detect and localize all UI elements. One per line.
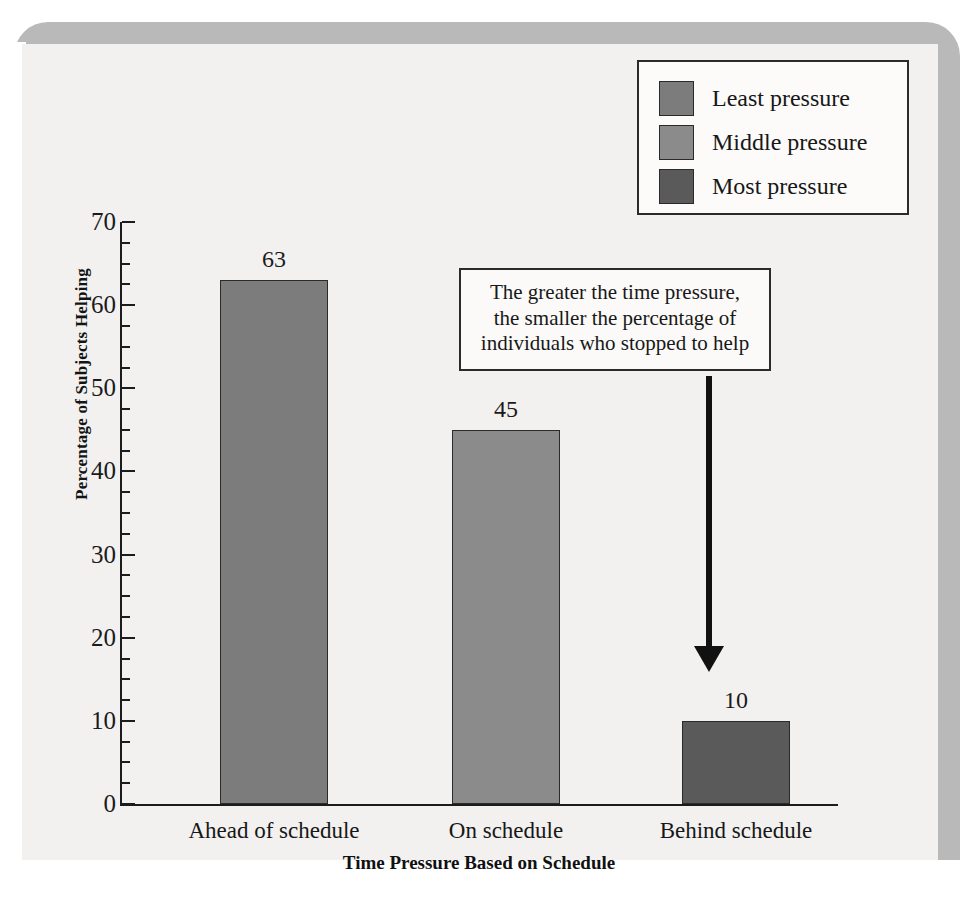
annotation-callout: The greater the time pressure, the small…: [459, 268, 771, 371]
y-tick-minor: [122, 699, 130, 701]
bar: [220, 280, 328, 804]
bar-value-label: 10: [686, 688, 786, 712]
bar: [682, 721, 790, 804]
legend-label: Middle pressure: [712, 129, 867, 156]
x-category-label: On schedule: [376, 819, 636, 842]
figure-page: 010203040506070 Percentage of Subjects H…: [0, 0, 974, 910]
y-tick-minor: [122, 242, 130, 244]
y-tick-minor: [122, 741, 130, 743]
y-axis-title: Percentage of Subjects Helping: [72, 204, 92, 564]
y-tick-minor: [122, 263, 130, 265]
y-tick-minor: [122, 325, 130, 327]
y-tick-minor: [122, 512, 130, 514]
bar: [452, 430, 560, 804]
y-tick-minor: [122, 782, 130, 784]
y-tick-major: [122, 304, 135, 306]
legend-swatch-icon: [659, 125, 694, 160]
bar-value-label: 63: [224, 247, 324, 271]
legend-swatch-icon: [659, 81, 694, 116]
annotation-line-1: The greater the time pressure,: [490, 280, 740, 304]
y-tick-minor: [122, 533, 130, 535]
y-tick-major: [122, 221, 135, 223]
y-tick-label: 20: [74, 625, 116, 650]
x-category-label: Ahead of schedule: [144, 819, 404, 842]
y-tick-major: [122, 637, 135, 639]
legend-item: Middle pressure: [659, 120, 907, 164]
y-tick-minor: [122, 283, 130, 285]
y-tick-label: 0: [74, 791, 116, 816]
x-axis-line: [120, 804, 838, 806]
annotation-arrow-shaft: [706, 376, 712, 652]
y-tick-minor: [122, 450, 130, 452]
y-axis-line: [120, 222, 122, 806]
legend-item: Most pressure: [659, 164, 907, 208]
legend-swatch-icon: [659, 169, 694, 204]
y-tick-minor: [122, 346, 130, 348]
legend-item: Least pressure: [659, 76, 907, 120]
y-tick-minor: [122, 574, 130, 576]
y-tick-minor: [122, 491, 130, 493]
y-tick-minor: [122, 616, 130, 618]
annotation-arrow-head-icon: [694, 646, 724, 672]
y-tick-minor: [122, 658, 130, 660]
y-tick-minor: [122, 678, 130, 680]
y-tick-minor: [122, 408, 130, 410]
annotation-line-3: individuals who stopped to help: [473, 331, 757, 357]
legend-label: Most pressure: [712, 173, 847, 200]
x-axis-title: Time Pressure Based on Schedule: [120, 852, 838, 874]
y-tick-major: [122, 554, 135, 556]
x-category-label: Behind schedule: [606, 819, 866, 842]
bar-chart: 010203040506070 Percentage of Subjects H…: [22, 44, 938, 860]
annotation-line-2: the smaller the percentage of: [473, 306, 757, 332]
bar-value-label: 45: [456, 397, 556, 421]
y-tick-label: 10: [74, 708, 116, 733]
y-tick-minor: [122, 429, 130, 431]
y-tick-major: [122, 803, 135, 805]
y-tick-major: [122, 387, 135, 389]
legend-label: Least pressure: [712, 85, 850, 112]
y-tick-major: [122, 470, 135, 472]
y-tick-major: [122, 720, 135, 722]
legend: Least pressureMiddle pressureMost pressu…: [637, 60, 909, 215]
y-tick-minor: [122, 367, 130, 369]
y-tick-minor: [122, 595, 130, 597]
y-tick-minor: [122, 761, 130, 763]
